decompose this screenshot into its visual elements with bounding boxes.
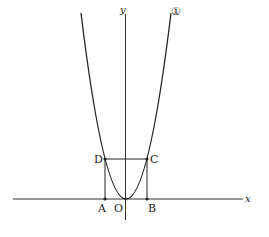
point-c — [145, 157, 148, 160]
point-a — [103, 197, 106, 200]
label-d: D — [94, 153, 103, 166]
label-b: B — [148, 202, 156, 215]
x-axis-label: x — [245, 193, 251, 204]
label-o: O — [114, 202, 123, 215]
parabola-diagram: y x ① D C A O B — [0, 0, 269, 237]
label-a: A — [97, 202, 107, 215]
curve-label: ① — [171, 5, 181, 18]
point-d — [103, 157, 106, 160]
y-axis-label: y — [119, 4, 126, 15]
point-b — [145, 197, 148, 200]
label-c: C — [150, 153, 158, 166]
